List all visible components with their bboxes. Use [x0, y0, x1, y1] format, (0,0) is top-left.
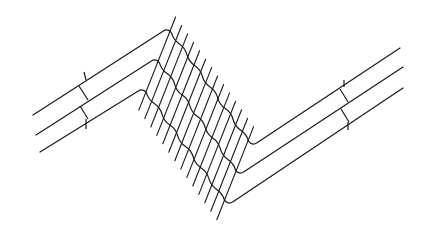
- hatch-line: [181, 76, 218, 169]
- hatch-line: [193, 93, 230, 186]
- parallel-lines: [33, 30, 403, 203]
- line-2: [36, 60, 403, 173]
- hatch-line: [205, 110, 242, 203]
- diagram-svg: [0, 0, 425, 242]
- hatch-line: [199, 101, 236, 194]
- hatch-line: [211, 118, 248, 211]
- hatch-band: [139, 17, 254, 220]
- hatch-line: [169, 59, 206, 152]
- hatch-line: [151, 34, 188, 127]
- z-bend-diagram: [0, 0, 425, 242]
- hatch-line: [175, 68, 212, 161]
- break-marks: [79, 72, 349, 130]
